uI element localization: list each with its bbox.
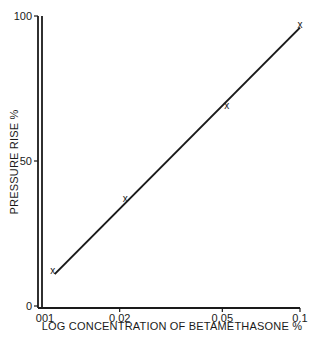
series: xxxx	[50, 19, 302, 277]
y-tick-label: 50	[20, 155, 32, 167]
fit-line	[55, 28, 300, 275]
y-axis-title: PRESSURE RISE %	[8, 109, 20, 214]
data-point-marker: x	[50, 265, 55, 276]
y-tick-label: 0	[26, 300, 32, 312]
x-axis-title: LOG CONCENTRATION OF BETAMETHASONE %	[42, 320, 302, 332]
y-tick-label: 100	[14, 10, 32, 22]
chart: 050100 0010.020.050.1 xxxx PRESSURE RISE…	[0, 0, 316, 347]
